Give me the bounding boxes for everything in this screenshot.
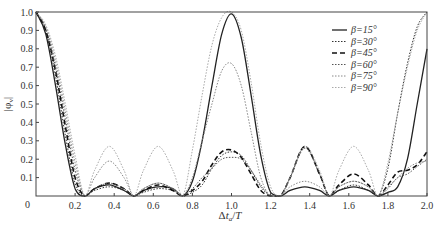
y-tick-label: 0.8: [21, 43, 34, 54]
y-tick-label: 0.4: [21, 117, 34, 128]
legend-label: β=60°: [350, 59, 377, 70]
legend-label: β=45°: [350, 47, 377, 58]
x-tick-label: 0.8: [186, 200, 199, 211]
x-tick-label: 1.4: [303, 200, 316, 211]
y-tick-label: 0.3: [21, 135, 34, 146]
legend-label: β=75°: [350, 70, 377, 81]
x-tick-label: 0.6: [147, 200, 160, 211]
legend: β=15°β=30°β=45°β=60°β=75°β=90°: [332, 24, 377, 93]
x-axis-label: Δta/T: [219, 209, 243, 223]
legend-label: β=90°: [350, 82, 377, 93]
y-tick-label: 0.2: [21, 154, 34, 165]
legend-label: β=15°: [350, 24, 377, 35]
x-tick-label: 1.8: [382, 200, 395, 211]
x-tick-label: 1.2: [264, 200, 277, 211]
chart: 00.10.20.30.40.50.60.70.80.91.0 0.20.40.…: [0, 0, 435, 225]
x-tick-label: 0.2: [69, 200, 82, 211]
x-tick-label: 2.0: [421, 200, 434, 211]
y-axis-label: |φv|: [1, 97, 15, 111]
x-tick-label: 0.4: [108, 200, 121, 211]
y-tick-label: 0.1: [21, 172, 34, 183]
y-tick-label: 1.0: [21, 7, 34, 18]
y-tick-label: 0.5: [21, 99, 34, 110]
legend-label: β=30°: [350, 36, 377, 47]
y-tick-label: 0.7: [21, 62, 34, 73]
y-tick-label: 0.9: [21, 25, 34, 36]
x-tick-label: 1.6: [343, 200, 356, 211]
y-tick-label: 0: [25, 199, 30, 210]
y-tick-label: 0.6: [21, 80, 34, 91]
